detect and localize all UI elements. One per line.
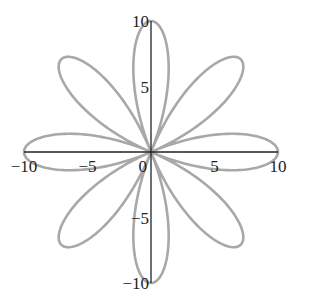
x-tick-label: 0: [139, 157, 148, 176]
y-tick-label: 10: [132, 12, 149, 31]
y-tick-label: −5: [131, 209, 149, 228]
x-tick-label: 10: [270, 157, 287, 176]
y-tick-label: −10: [122, 274, 149, 293]
y-tick-label: 5: [141, 78, 150, 97]
plot-area: [24, 21, 278, 283]
x-tick-label: −10: [11, 157, 38, 176]
x-tick-label: 5: [210, 157, 219, 176]
polar-rose-chart: −10−50510 105−5−10: [0, 0, 332, 296]
x-tick-label: −5: [78, 157, 96, 176]
